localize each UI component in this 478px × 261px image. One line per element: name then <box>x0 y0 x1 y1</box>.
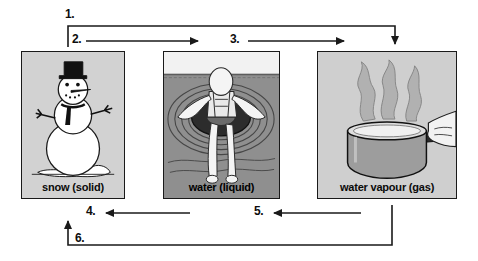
step-label-3: 3. <box>230 33 239 45</box>
panel-snow-caption: snow (solid) <box>22 181 124 193</box>
panel-vapour-caption: water vapour (gas) <box>318 181 456 193</box>
arrow-6-path <box>68 205 392 245</box>
step-label-2: 2. <box>72 33 81 45</box>
panel-snow-solid: snow (solid) <box>21 51 125 199</box>
panel-vapour-gas: water vapour (gas) <box>317 51 457 199</box>
steaming-pot-icon <box>318 52 456 198</box>
step-label-5: 5. <box>254 205 263 217</box>
step-label-4: 4. <box>86 205 95 217</box>
step-label-1: 1. <box>65 8 74 20</box>
person-floating-in-inner-tube-icon <box>164 52 279 198</box>
step-label-6: 6. <box>75 232 84 244</box>
diagram-canvas: 1. 2. 3. 4. 5. 6. <box>0 0 478 261</box>
panel-water-liquid: water (liquid) <box>163 51 280 199</box>
snowman-icon <box>22 52 124 198</box>
panel-water-caption: water (liquid) <box>164 181 279 193</box>
